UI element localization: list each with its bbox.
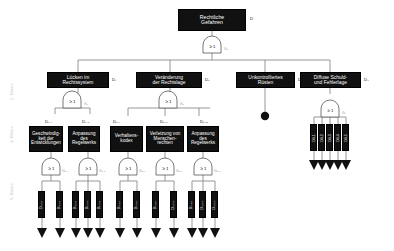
leaf-box-d4[interactable]: D4.5 — [342, 124, 349, 151]
level-label-5: 5. Ebene — [9, 183, 14, 200]
leaf-box[interactable]: D₂.₂.₁ — [152, 191, 159, 218]
leaf-box[interactable]: D₁.₂.₁ — [72, 191, 79, 218]
tag-d1: D₁ — [112, 77, 117, 82]
leaf-box[interactable]: D₁.₂.₂ — [84, 191, 91, 218]
node-geschwindigkeit-der-entwicklungen[interactable]: Geschwindig- keit der Entwicklungen — [29, 126, 63, 152]
leaf-box-d4[interactable]: D4.3 — [326, 124, 333, 151]
leaf-label: D₁.₂.₁ — [74, 200, 78, 208]
leaf-label: D₂.₂.₂ — [172, 200, 176, 209]
node-diffuse-schuld-und-fehlerlage[interactable]: Diffuse Schuld- und Fehlerlage — [300, 72, 361, 88]
leaf-label: D₂.₃.₃ — [213, 200, 217, 209]
leaf-label: D₂.₁.₂ — [135, 200, 139, 209]
leaf-label: D4.3 — [328, 134, 332, 142]
gate-label-d21: G₂.₁ — [139, 169, 145, 173]
tag-d2-2: D₂.₂ — [160, 119, 168, 124]
leaf-box[interactable]: D₂.₁.₁ — [116, 191, 123, 218]
tag-d2: D₂ — [205, 77, 210, 82]
gate-d21[interactable]: ≥ 1 — [119, 160, 138, 175]
leaf-box[interactable]: D₂.₃.₁ — [188, 191, 195, 218]
leaf-label: D₂.₁.₁ — [118, 200, 122, 208]
gate-d11[interactable]: ≥ 1 — [42, 160, 61, 175]
leaf-label: D₂.₂.₁ — [154, 200, 158, 209]
leaf-label: D4.5 — [344, 134, 348, 142]
gate-d1[interactable]: ≥ 1 — [63, 93, 82, 108]
leaf-box-d4[interactable]: D4.2 — [318, 124, 325, 151]
gate-symbol-d21: ≥ 1 — [119, 160, 138, 175]
level-label-3: 3. Ebene — [9, 126, 14, 143]
leaf-box[interactable]: D₁.₁.₁ — [38, 191, 45, 218]
leaf-box[interactable]: D₂.₁.₂ — [133, 191, 140, 218]
gate-d4[interactable]: ≥ 1 — [321, 102, 340, 117]
node-anpassung-des-regelwerks-1[interactable]: Anpassung des Regelwerks — [68, 126, 100, 152]
gate-symbol-d4: ≥ 1 — [321, 102, 340, 117]
node-rechtliche-gefahren[interactable]: Rechtliche Gefahren — [178, 9, 246, 31]
leaf-box[interactable]: D₁.₁.₂ — [56, 191, 63, 218]
leaf-box[interactable]: D₁.₂.₃ — [96, 191, 103, 218]
gate-symbol-d23: ≥ 1 — [194, 160, 213, 175]
gate-label-d23: G₂.₃ — [214, 169, 220, 173]
node-anpassung-des-regelwerks-2[interactable]: Anpassung des Regelwerks — [187, 126, 219, 152]
tag-d4: D₄ — [364, 77, 369, 82]
tag-d2-1: D₂.₁ — [113, 119, 120, 124]
leaf-label: D4.4 — [336, 134, 340, 142]
gate-label-d2: G₂ — [180, 102, 184, 106]
leaf-box-d4[interactable]: D4.4 — [334, 124, 341, 151]
undeveloped-event-circle — [261, 112, 269, 120]
leaf-label: D₂.₃.₁ — [190, 200, 194, 209]
gate-label-d1: G₁ — [84, 102, 88, 106]
leaf-box-d4[interactable]: D4.1 — [310, 124, 317, 151]
gate-label-d11: G₁.₁ — [62, 169, 68, 173]
node-luecken-im-rechtssystem[interactable]: Lücken im Rechtssystem — [47, 72, 109, 88]
gate-symbol-d1: ≥ 1 — [63, 93, 82, 108]
gate-symbol-d12: ≥ 1 — [79, 160, 98, 175]
fault-tree-diagram: 2. Ebene 3. Ebene 5. Ebene Rechtliche Ge… — [0, 0, 394, 251]
gate-d23[interactable]: ≥ 1 — [194, 160, 213, 175]
tag-d2-3: D₂.₃ — [200, 119, 208, 124]
gate-label-top: G₀ — [224, 47, 228, 51]
node-unkontrolliertes-ruesten[interactable]: Unkontrolliertes Rüsten — [236, 72, 295, 88]
leaf-label: D₁.₂.₂ — [86, 200, 90, 209]
gate-top[interactable]: ≥ 1 — [203, 38, 222, 53]
gate-symbol-d11: ≥ 1 — [42, 160, 61, 175]
gate-label-d22: G₂.₂ — [176, 169, 182, 173]
gate-symbol-top: ≥ 1 — [203, 38, 222, 53]
gate-d22[interactable]: ≥ 1 — [156, 160, 175, 175]
node-verhaltenskodex[interactable]: Verhaltens- kodex — [110, 126, 143, 152]
gate-label-d4: G₄ — [342, 111, 346, 115]
leaf-label: D₁.₁.₂ — [58, 200, 62, 208]
leaf-label: D4.1 — [312, 134, 316, 142]
gate-label-d12: G₁.₂ — [99, 169, 105, 173]
tag-d1-1: D₁.₁ — [45, 119, 52, 124]
gate-symbol-d22: ≥ 1 — [156, 160, 175, 175]
leaf-label: D₁.₂.₃ — [98, 200, 102, 209]
leaf-label: D4.2 — [320, 134, 324, 142]
node-verletzung-von-menschenrechten[interactable]: Verletzung von Menschen- rechten — [146, 126, 184, 152]
leaf-box[interactable]: D₂.₃.₃ — [211, 191, 218, 218]
leaf-box[interactable]: D₂.₂.₂ — [170, 191, 177, 218]
node-veraenderung-der-rechtslage[interactable]: Veränderung der Rechtslage — [136, 72, 202, 88]
leaf-label: D₁.₁.₁ — [40, 200, 44, 208]
tag-top-node: D — [250, 16, 253, 21]
gate-d12[interactable]: ≥ 1 — [79, 160, 98, 175]
leaf-label: D₂.₃.₂ — [201, 200, 205, 209]
gate-d2[interactable]: ≥ 1 — [159, 93, 178, 108]
gate-symbol-d2: ≥ 1 — [159, 93, 178, 108]
level-label-2: 2. Ebene — [9, 83, 14, 100]
leaf-box[interactable]: D₂.₃.₂ — [199, 191, 206, 218]
tag-d1-2: D₁.₂ — [82, 119, 89, 124]
